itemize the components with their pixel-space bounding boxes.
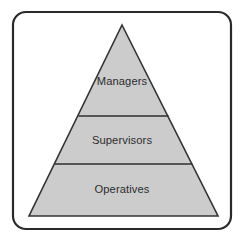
pyramid-diagram: Managers Supervisors Operatives [0,0,243,247]
tier-label-supervisors: Supervisors [92,134,152,146]
tier-label-managers: Managers [97,75,148,87]
diagram-canvas: Managers Supervisors Operatives [0,0,243,247]
tier-label-operatives: Operatives [94,183,149,195]
